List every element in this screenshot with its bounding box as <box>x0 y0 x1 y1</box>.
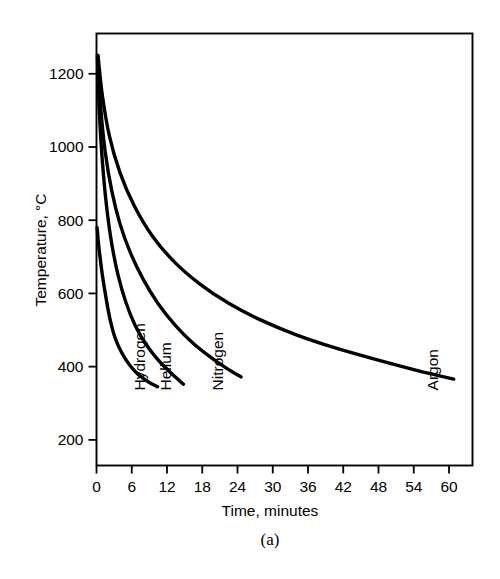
series-label-argon: Argon <box>424 349 441 390</box>
x-tick-label: 36 <box>299 478 316 495</box>
plot-frame <box>97 34 473 466</box>
x-tick-label: 24 <box>229 478 247 495</box>
data-series-curves <box>97 55 454 386</box>
y-tick-label: 600 <box>58 285 84 302</box>
x-axis-title: Time, minutes <box>222 502 319 519</box>
x-tick-label: 60 <box>440 478 458 495</box>
y-axis-title: Temperature, °C <box>32 193 49 306</box>
x-tick-label: 6 <box>127 478 136 495</box>
y-tick-label: 400 <box>58 358 84 375</box>
y-tick-label: 800 <box>58 212 84 229</box>
x-tick-label: 48 <box>370 478 387 495</box>
series-label-nitrogen: Nitrogen <box>209 332 226 391</box>
x-tick-label: 12 <box>158 478 175 495</box>
series-label-helium: Helium <box>157 342 174 390</box>
y-tick-label: 200 <box>58 431 84 448</box>
x-tick-label: 0 <box>92 478 101 495</box>
figure-container: 20040060080010001200 0612182430364248546… <box>0 0 500 579</box>
x-axis-ticks <box>97 466 450 474</box>
x-tick-label: 42 <box>335 478 352 495</box>
x-tick-label: 54 <box>405 478 423 495</box>
y-axis-ticks <box>89 74 97 440</box>
x-tick-label: 30 <box>264 478 282 495</box>
y-tick-label: 1200 <box>49 65 84 82</box>
series-label-hydrogen: Hydrogen <box>131 323 148 390</box>
y-axis-tick-labels: 20040060080010001200 <box>49 65 84 448</box>
x-tick-label: 18 <box>194 478 211 495</box>
series-curve-argon <box>98 55 454 379</box>
temperature-cooling-curve-chart: 20040060080010001200 0612182430364248546… <box>0 0 500 579</box>
series-curve-nitrogen <box>98 55 241 376</box>
y-tick-label: 1000 <box>49 138 84 155</box>
x-axis-tick-labels: 06121824303642485460 <box>92 478 458 495</box>
figure-caption: (a) <box>261 530 280 549</box>
